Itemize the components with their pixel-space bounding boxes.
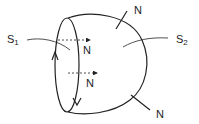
surface-normals-diagram: S1 S2 N N N N: [0, 0, 199, 124]
label-s2: S2: [176, 34, 188, 47]
label-normal-s1-lower: N: [86, 78, 94, 89]
s2-pointer: [123, 38, 168, 47]
label-normal-s2-bottom: N: [156, 109, 164, 120]
s1-pointer: [27, 39, 70, 50]
boundary-loop: [55, 18, 79, 112]
label-normal-s1-upper: N: [83, 45, 91, 56]
normal-s2-bottom-line: [131, 95, 150, 110]
label-normal-s2-top: N: [134, 5, 142, 16]
diagram-graphic: [0, 0, 199, 124]
normal-s2-top-line: [116, 11, 127, 29]
label-s1: S1: [7, 34, 19, 47]
